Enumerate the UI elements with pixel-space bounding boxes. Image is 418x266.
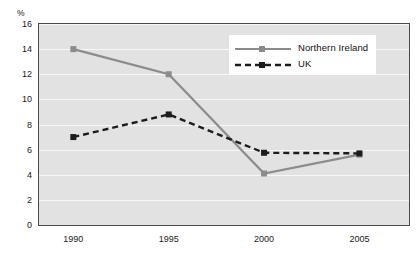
y-axis-tick-label: 6 [6, 145, 32, 155]
legend-label: Northern Ireland [298, 42, 368, 53]
y-axis-tick-label: 2 [6, 195, 32, 205]
y-axis-tick-label: 4 [6, 170, 32, 180]
legend-swatch-icon [235, 41, 291, 53]
y-axis-unit-label: % [17, 8, 25, 18]
plot-area: Northern IrelandUK [38, 23, 410, 226]
series-line-2 [73, 114, 359, 153]
data-point-marker [70, 46, 76, 52]
data-point-marker [70, 134, 76, 140]
y-axis-tick-label: 14 [6, 44, 32, 54]
data-point-marker [261, 150, 267, 156]
line-chart: % Northern IrelandUK 0246810121416 19901… [0, 0, 418, 266]
data-point-marker [166, 71, 172, 77]
legend-item-2: UK [235, 55, 368, 71]
legend-swatch-icon [235, 57, 291, 69]
x-axis-tick-label: 1995 [159, 234, 179, 244]
y-axis-tick-label: 8 [6, 120, 32, 130]
data-point-marker [356, 150, 362, 156]
chart-legend: Northern IrelandUK [229, 35, 376, 75]
y-axis-tick-label: 12 [6, 69, 32, 79]
y-axis-tick-label: 10 [6, 94, 32, 104]
data-point-marker [261, 170, 267, 176]
data-point-marker [166, 111, 172, 117]
x-axis-tick-label: 2005 [349, 234, 369, 244]
legend-label: UK [298, 58, 311, 69]
x-axis-tick-label: 1990 [63, 234, 83, 244]
x-axis-tick-label: 2000 [254, 234, 274, 244]
y-axis-tick-label: 0 [6, 220, 32, 230]
y-axis-tick-label: 16 [6, 19, 32, 29]
legend-item-1: Northern Ireland [235, 39, 368, 55]
